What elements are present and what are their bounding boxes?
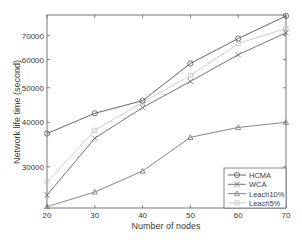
y-tick-label: 30000 xyxy=(22,163,45,172)
x-axis-label: Number of nodes xyxy=(131,221,201,231)
x-tick-label: 20 xyxy=(43,211,52,220)
line-chart: 2030405060703000040000500006000070000 Nu… xyxy=(0,0,302,243)
y-tick-label: 60000 xyxy=(22,56,45,65)
legend-label: HCMA xyxy=(249,171,271,180)
y-tick-label: 50000 xyxy=(22,84,45,93)
y-tick-label: 40000 xyxy=(22,118,45,127)
x-tick-label: 50 xyxy=(186,211,195,220)
legend-label: Leach10% xyxy=(249,190,285,199)
x-tick-label: 60 xyxy=(234,211,243,220)
x-tick-label: 70 xyxy=(282,211,291,220)
y-axis-label: Network life time (second) xyxy=(12,60,22,164)
legend-label: Leach5% xyxy=(249,199,281,208)
legend-label: WCA xyxy=(249,180,267,189)
x-tick-label: 30 xyxy=(90,211,99,220)
legend: HCMAWCALeach10%Leach5% xyxy=(224,168,286,208)
x-tick-label: 40 xyxy=(138,211,147,220)
y-tick-label: 70000 xyxy=(22,32,45,41)
